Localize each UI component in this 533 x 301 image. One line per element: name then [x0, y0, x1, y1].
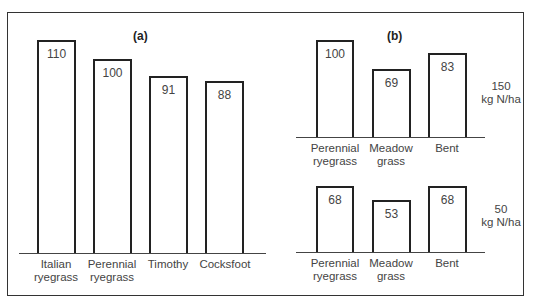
panel-b-bottom-baseline — [296, 252, 485, 253]
category-label: Bent — [417, 142, 477, 155]
category-label: Perennial ryegrass — [305, 142, 365, 168]
bar-value: 53 — [374, 207, 409, 221]
nitrogen-rate-label-150: 150 kg N/ha — [478, 80, 524, 106]
bar-bent-50: 68 — [428, 186, 467, 252]
bar-value: 88 — [207, 88, 242, 102]
bar-value: 91 — [151, 83, 186, 97]
category-label: Meadow grass — [361, 257, 421, 283]
category-label: Timothy — [138, 258, 198, 271]
panel-b-top-baseline — [296, 137, 485, 138]
bar-meadow-grass-150: 69 — [372, 69, 411, 137]
bar-value: 68 — [430, 193, 465, 207]
bar-value: 100 — [318, 47, 352, 61]
panel-b-label: (b) — [387, 29, 402, 43]
bar-value: 110 — [39, 47, 74, 61]
bar-value: 83 — [430, 60, 465, 74]
bar-timothy: 91 — [149, 76, 188, 253]
category-label: Meadow grass — [361, 142, 421, 168]
category-label: Italian ryegrass — [26, 258, 86, 284]
panel-a-baseline — [19, 253, 266, 254]
bar-value: 100 — [95, 66, 130, 80]
bar-value: 69 — [374, 76, 409, 90]
category-label: Perennial ryegrass — [305, 257, 365, 283]
category-label: Cocksfoot — [194, 258, 256, 271]
category-label: Perennial ryegrass — [82, 258, 142, 284]
bar-cocksfoot: 88 — [205, 81, 244, 253]
bar-meadow-grass-50: 53 — [372, 200, 411, 252]
bar-perennial-ryegrass: 100 — [93, 59, 132, 253]
panel-a-label: (a) — [133, 29, 148, 43]
nitrogen-rate-label-50: 50 kg N/ha — [478, 203, 524, 229]
category-label: Bent — [417, 257, 477, 270]
bar-italian-ryegrass: 110 — [37, 40, 76, 253]
bar-value: 68 — [318, 193, 352, 207]
bar-perennial-ryegrass-50: 68 — [316, 186, 354, 252]
bar-perennial-ryegrass-150: 100 — [316, 40, 354, 137]
bar-bent-150: 83 — [428, 53, 467, 137]
